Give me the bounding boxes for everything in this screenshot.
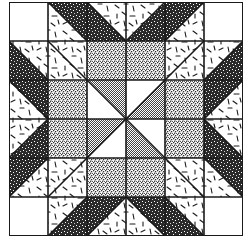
quilt-cell xyxy=(204,197,243,236)
quilt-cell xyxy=(48,80,87,119)
patch-stipple xyxy=(48,80,87,119)
quilt-cell xyxy=(9,197,48,236)
patch-stipple xyxy=(48,119,87,158)
patch-white xyxy=(204,2,243,41)
patch-stipple xyxy=(87,158,126,197)
patch-stipple xyxy=(126,41,165,80)
patch-white xyxy=(9,2,48,41)
quilt-cell xyxy=(165,80,204,119)
patch-stipple xyxy=(165,80,204,119)
quilt-cell xyxy=(48,119,87,158)
quilt-cell xyxy=(9,2,48,41)
quilt-cell xyxy=(126,158,165,197)
patch-white xyxy=(9,197,48,236)
quilt-cell xyxy=(87,158,126,197)
quilt-block xyxy=(9,2,243,236)
quilt-cell xyxy=(204,2,243,41)
quilt-cell xyxy=(87,41,126,80)
quilt-cell xyxy=(165,119,204,158)
patch-white xyxy=(204,197,243,236)
quilt-cell xyxy=(126,41,165,80)
patch-stipple xyxy=(126,158,165,197)
patch-stipple xyxy=(87,41,126,80)
patch-stipple xyxy=(165,119,204,158)
